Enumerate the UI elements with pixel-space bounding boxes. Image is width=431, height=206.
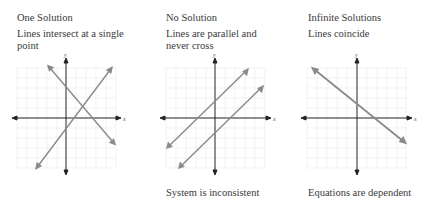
graph-coincident-lines: x y: [288, 0, 431, 206]
line-coincident: [313, 68, 406, 143]
graph-intersecting-lines: x y: [0, 0, 144, 206]
x-axis-label: x: [122, 116, 126, 122]
panel-caption: System is inconsistent: [166, 187, 259, 198]
y-axis-label: y: [63, 52, 67, 58]
panel-caption: Equations are dependent: [308, 187, 411, 198]
panel-infinite-solutions: Infinite Solutions Lines coincide x y Eq…: [288, 0, 431, 206]
axes: [301, 58, 412, 175]
line-upper: [167, 69, 248, 148]
axes: [12, 58, 121, 175]
y-axis-label: y: [354, 52, 358, 58]
panel-no-solution: No Solution Lines are parallel and never…: [144, 0, 288, 206]
y-axis-label: y: [212, 52, 216, 58]
graph-parallel-lines: x y: [144, 0, 288, 206]
x-axis-label: x: [413, 116, 417, 122]
panel-one-solution: One Solution Lines intersect at a single…: [0, 0, 144, 206]
axes: [160, 58, 271, 175]
x-axis-label: x: [272, 116, 276, 122]
